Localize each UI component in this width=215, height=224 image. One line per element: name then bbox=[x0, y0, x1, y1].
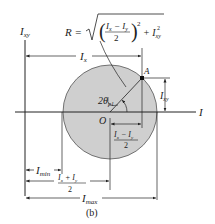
svg-text:(: ( bbox=[99, 20, 106, 43]
radius-lhs: R = bbox=[64, 26, 82, 38]
half-diff-denominator: 2 bbox=[124, 141, 128, 150]
origin-label: O bbox=[99, 115, 106, 126]
radius-numerator: Ix − Iy bbox=[105, 21, 128, 32]
horizontal-axis-label: I bbox=[198, 106, 204, 118]
figure-caption: (b) bbox=[86, 207, 98, 219]
vertical-axis-label: Ixy bbox=[19, 25, 31, 39]
radius-exponent: 2 bbox=[137, 20, 141, 28]
point-a-label: A bbox=[143, 66, 150, 76]
half-sum-denominator: 2 bbox=[68, 185, 72, 194]
mohr-circle-diagram: R = ( Ix − Iy 2 ) 2 + Ixy 2 Ixy I O A Ix… bbox=[0, 0, 215, 224]
svg-text:2: 2 bbox=[157, 25, 160, 31]
point-a-marker bbox=[140, 76, 144, 80]
half-diff-numerator: Ix − Iy bbox=[113, 130, 134, 140]
half-sum-numerator: Ix + Iy bbox=[57, 173, 78, 183]
radius-denominator: 2 bbox=[114, 33, 119, 43]
